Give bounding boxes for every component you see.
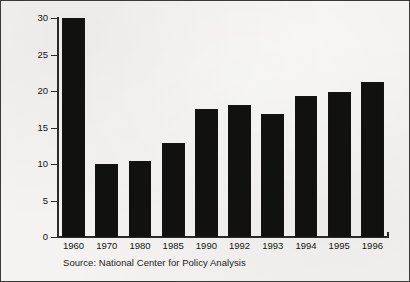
x-axis-tick-label: 1990 [190, 240, 223, 251]
x-axis-tick-label: 1985 [157, 240, 190, 251]
y-axis-tick-label: 5 [24, 195, 48, 206]
bar-chart-figure: Expected Prison Time (in days) 051015202… [0, 0, 410, 282]
y-axis-tick [51, 164, 57, 165]
x-axis-tick-label: 1994 [289, 240, 322, 251]
y-axis-line [57, 17, 59, 238]
y-axis-tick-label: 20 [24, 85, 48, 96]
y-axis-tick [51, 18, 57, 19]
y-axis-tick [51, 91, 57, 92]
y-axis-tick-label: 25 [24, 49, 48, 60]
bar [261, 114, 284, 237]
x-axis-tick-label: 1992 [223, 240, 256, 251]
x-axis-end-tick [387, 232, 389, 238]
bar [62, 18, 85, 237]
x-axis-tick-label: 1996 [356, 240, 389, 251]
y-axis-tick-label: 0 [24, 231, 48, 242]
y-axis-tick-label: 10 [24, 158, 48, 169]
source-note: Source: National Center for Policy Analy… [63, 257, 246, 268]
bar [361, 82, 384, 237]
y-axis-tick [51, 237, 57, 238]
x-axis-tick-label: 1960 [57, 240, 90, 251]
y-axis-tick [51, 128, 57, 129]
x-axis-tick-label: 1993 [256, 240, 289, 251]
y-axis-tick [51, 201, 57, 202]
x-axis-tick-label: 1980 [123, 240, 156, 251]
x-axis-tick-label: 1970 [90, 240, 123, 251]
bar [295, 96, 318, 237]
y-axis-tick-label: 30 [24, 12, 48, 23]
y-axis-tick-label: 15 [24, 122, 48, 133]
bar [328, 92, 351, 237]
bar [95, 164, 118, 237]
plot-area: 051015202530 196019701980198519901992199… [57, 18, 395, 237]
x-axis-tick-label: 1995 [323, 240, 356, 251]
bar [228, 105, 251, 237]
bar [162, 143, 185, 237]
bar [195, 109, 218, 237]
y-axis-tick [51, 55, 57, 56]
bar [129, 161, 152, 237]
